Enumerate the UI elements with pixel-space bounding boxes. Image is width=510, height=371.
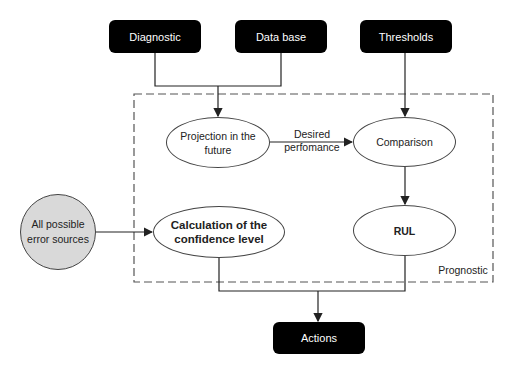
thresholds-node: Thresholds (360, 20, 452, 53)
thresholds-label: Thresholds (379, 31, 433, 43)
projection-node: Projection in the future (166, 117, 270, 168)
connector-lines (0, 0, 510, 371)
comparison-node: Comparison (353, 117, 456, 167)
error-sources-node: All possible error sources (20, 194, 96, 270)
database-label: Data base (256, 31, 306, 43)
calculation-node: Calculation of the confidence level (153, 206, 285, 258)
actions-node: Actions (273, 322, 365, 354)
prognostic-group-label: Prognostic (436, 264, 490, 277)
comparison-label: Comparison (376, 135, 433, 149)
diagnostic-label: Diagnostic (129, 31, 180, 43)
actions-label: Actions (301, 332, 337, 344)
calculation-label: Calculation of the confidence level (170, 218, 268, 246)
rul-label: RUL (394, 224, 416, 238)
projection-label: Projection in the future (179, 129, 257, 157)
rul-node: RUL (353, 205, 456, 256)
database-node: Data base (235, 20, 327, 53)
desired-performance-label: Desired perfomance (280, 128, 344, 154)
error-sources-label: All possible error sources (27, 217, 89, 247)
diagnostic-node: Diagnostic (109, 20, 201, 53)
